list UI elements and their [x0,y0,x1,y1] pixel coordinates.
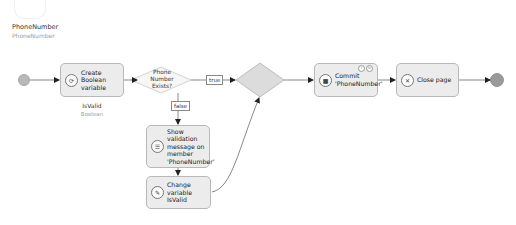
refresh-icon[interactable]: ↻ [366,65,373,72]
activity-label: Commit 'PhoneNumber' [335,72,382,87]
create-variable-activity[interactable]: ⟳ Create Boolean variable [60,63,124,97]
flow-label-false: false [171,101,190,111]
validation-feedback-activity[interactable]: ☰ Show validation message on member 'Pho… [146,125,210,168]
start-event-icon [19,75,30,86]
change-variable-activity[interactable]: ✎ Change variable IsValid [146,176,211,209]
activity-label: Create Boolean variable [81,69,120,92]
activity-label: Close page [417,76,451,84]
activity-label: Change variable IsValid [167,181,207,204]
activity-label: Show validation message on member 'Phone… [167,128,214,166]
merge-shape [236,63,284,97]
decision-label[interactable]: Phone Number Exists? [144,69,180,90]
output-variable-type: Boolean [60,111,124,117]
output-variable-name: IsValid [60,102,124,109]
error-handler-icon[interactable]: ! [358,65,365,72]
close-page-icon: ✕ [401,74,414,87]
close-page-activity[interactable]: ✕ Close page [396,63,459,97]
commit-icon: ■ [319,74,332,87]
create-variable-icon: ⟳ [65,74,78,87]
end-event-icon [491,74,504,87]
change-variable-icon: ✎ [151,186,164,199]
flow-label-true: true [206,75,223,85]
validation-feedback-icon: ☰ [151,140,164,153]
commit-activity[interactable]: ■ Commit 'PhoneNumber' ! ↻ [314,63,378,97]
microflow-canvas[interactable]: PhoneNumber PhoneNumber ⟳ [0,0,516,225]
variable-output: IsValid Boolean [60,102,124,117]
